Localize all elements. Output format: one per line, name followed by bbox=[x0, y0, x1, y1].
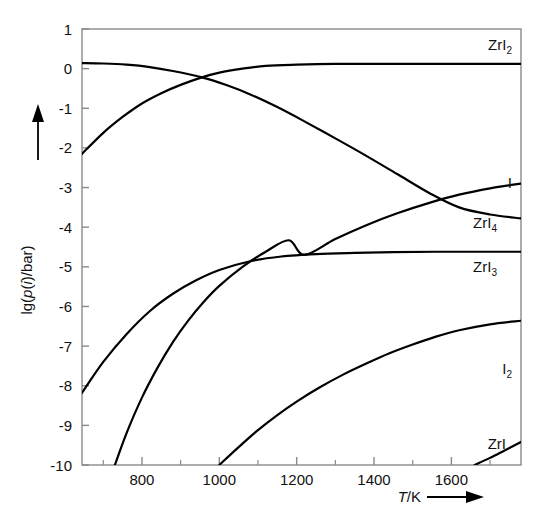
x-tick-label: 800 bbox=[129, 471, 154, 488]
y-tick-label: 1 bbox=[64, 21, 72, 38]
chart-figure: 10-1-2-3-4-5-6-7-8-9-1080010001200140016… bbox=[0, 0, 544, 523]
curve-label-ZrI2: ZrI2 bbox=[488, 36, 512, 56]
y-tick-label: -1 bbox=[59, 100, 72, 117]
curve-ZrI3 bbox=[82, 252, 521, 393]
y-axis-title: lg(p(i)/bar) bbox=[18, 245, 35, 314]
curves-group bbox=[82, 63, 521, 465]
y-tick-label: -7 bbox=[59, 338, 72, 355]
curve-I2 bbox=[219, 321, 521, 465]
y-tick-label: -6 bbox=[59, 298, 72, 315]
y-tick-label: -5 bbox=[59, 258, 72, 275]
curve-ZrI2 bbox=[82, 64, 521, 154]
y-tick-label: -3 bbox=[59, 179, 72, 196]
y-tick-label: -4 bbox=[59, 219, 72, 236]
curve-I bbox=[115, 184, 521, 465]
curve-label-ZrI: ZrI bbox=[488, 435, 506, 452]
y-tick-label: -8 bbox=[59, 377, 72, 394]
curve-label-ZrI3: ZrI3 bbox=[473, 258, 497, 278]
x-tick-label: 1600 bbox=[435, 471, 468, 488]
curve-label-I2: I2 bbox=[502, 360, 512, 380]
y-tick-label: -2 bbox=[59, 139, 72, 156]
y-axis-arrow-head bbox=[32, 104, 44, 122]
x-tick-label: 1200 bbox=[280, 471, 313, 488]
x-axis-title: T/K bbox=[398, 488, 421, 505]
x-tick-label: 1000 bbox=[203, 471, 236, 488]
y-tick-label: -10 bbox=[50, 457, 72, 474]
x-axis-arrow-head bbox=[466, 491, 484, 503]
y-axis-title-group: lg(p(i)/bar) bbox=[18, 104, 44, 315]
y-tick-label: 0 bbox=[64, 60, 72, 77]
x-axis-title-group: T/K bbox=[398, 488, 484, 505]
y-tick-label: -9 bbox=[59, 417, 72, 434]
x-tick-label: 1400 bbox=[357, 471, 390, 488]
curve-label-I: I bbox=[508, 174, 512, 191]
chart-svg: 10-1-2-3-4-5-6-7-8-9-1080010001200140016… bbox=[0, 0, 544, 523]
curve-label-ZrI4: ZrI4 bbox=[473, 214, 497, 234]
